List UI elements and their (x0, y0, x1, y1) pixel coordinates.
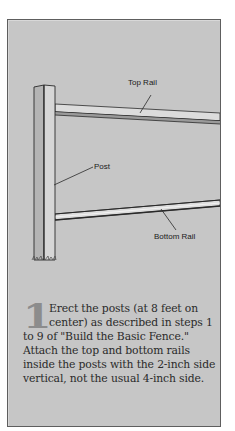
step-number-dropcap: 1 (23, 303, 43, 329)
bottom-rail-label: Bottom Rail (154, 232, 195, 241)
step-number: 1 (23, 303, 47, 329)
bottom-rail-drawing (55, 82, 220, 220)
fence-illustration: Top Rail Post Bottom Rail (8, 20, 220, 280)
post-drawing (32, 85, 56, 260)
top-rail-drawing (55, 104, 220, 124)
post-label: Post (94, 162, 110, 171)
top-rail-label: Top Rail (128, 78, 157, 87)
instruction-panel: Top Rail Post Bottom Rail 1 Erect the po… (7, 19, 221, 427)
step-text: Erect the posts (at 8 feet on center) as… (23, 302, 215, 385)
step-caption: 1 Erect the posts (at 8 feet on center) … (23, 302, 218, 385)
